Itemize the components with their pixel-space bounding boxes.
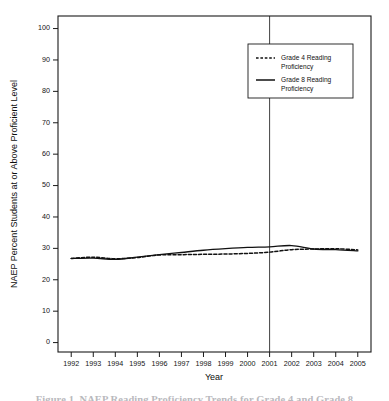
x-tick-label: 1992: [63, 359, 79, 368]
y-tick-label: 0: [46, 337, 50, 346]
naep-reading-proficiency-line-chart: 0102030405060708090100 19921993199419951…: [0, 0, 389, 401]
chart-legend[interactable]: Grade 4 Reading Proficiency Grade 8 Read…: [248, 44, 353, 98]
legend-label-grade-8-line1: Grade 8 Reading: [281, 76, 332, 84]
x-axis-ticks: 1992199319941995199619971998199920002001…: [63, 352, 366, 368]
y-tick-label: 50: [42, 180, 50, 189]
y-tick-label: 90: [42, 55, 50, 64]
x-axis-title-text: Year: [205, 372, 223, 382]
x-tick-label: 1998: [195, 359, 211, 368]
legend-label-grade-8-line2: Proficiency: [281, 85, 314, 93]
x-tick-label: 1996: [151, 359, 167, 368]
x-tick-label: 1993: [85, 359, 101, 368]
y-tick-label: 40: [42, 212, 50, 221]
x-tick-label: 2005: [350, 359, 366, 368]
y-axis-title: NAEP Percent Students at or Above Profic…: [9, 80, 19, 288]
x-tick-label: 1997: [173, 359, 189, 368]
x-tick-label: 2001: [262, 359, 278, 368]
y-tick-label: 70: [42, 118, 50, 127]
y-tick-label: 100: [38, 23, 50, 32]
legend-label-grade-4-line1: Grade 4 Reading: [281, 54, 332, 62]
x-axis-title: Year: [205, 372, 223, 382]
x-tick-label: 1999: [218, 359, 234, 368]
y-tick-label: 10: [42, 306, 50, 315]
x-tick-label: 2000: [240, 359, 256, 368]
x-tick-label: 2002: [284, 359, 300, 368]
y-tick-label: 30: [42, 243, 50, 252]
figure-container: 0102030405060708090100 19921993199419951…: [0, 0, 389, 401]
x-tick-label: 2004: [328, 359, 344, 368]
legend-label-grade-4-line2: Proficiency: [281, 63, 314, 71]
figure-caption: Figure 1. NAEP Reading Proficiency Trend…: [0, 387, 389, 401]
x-tick-label: 2003: [306, 359, 322, 368]
y-axis-title-text: NAEP Percent Students at or Above Profic…: [9, 80, 19, 288]
y-axis-ticks: 0102030405060708090100: [38, 23, 58, 346]
y-tick-label: 80: [42, 86, 50, 95]
x-tick-label: 1994: [107, 359, 123, 368]
y-tick-label: 20: [42, 275, 50, 284]
x-tick-label: 1995: [129, 359, 145, 368]
y-tick-label: 60: [42, 149, 50, 158]
